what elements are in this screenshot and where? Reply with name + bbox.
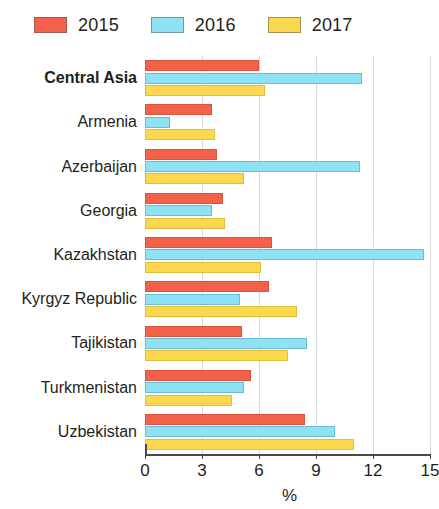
legend-item-2016[interactable]: 2016 — [151, 16, 236, 34]
bar-2015-georgia[interactable] — [145, 193, 223, 204]
bar-group-uzbekistan — [145, 414, 430, 450]
gridline-15 — [430, 56, 431, 454]
bar-2016-georgia[interactable] — [145, 205, 212, 216]
tick-9 — [316, 454, 317, 459]
bar-group-georgia — [145, 193, 430, 229]
category-label-kazakhstan: Kazakhstan — [0, 247, 137, 263]
x-axis-line — [145, 454, 431, 456]
bar-2015-armenia[interactable] — [145, 104, 212, 115]
x-tick-label-6: 6 — [254, 462, 263, 479]
legend-item-2015[interactable]: 2015 — [34, 16, 119, 34]
legend-swatch-2016 — [151, 17, 184, 33]
bar-2015-azerbaijan[interactable] — [145, 149, 217, 160]
bar-2016-central-asia[interactable] — [145, 73, 362, 84]
x-tick-label-15: 15 — [421, 462, 439, 479]
x-tick-label-0: 0 — [140, 462, 149, 479]
bar-2017-armenia[interactable] — [145, 129, 215, 140]
category-label-uzbekistan: Uzbekistan — [0, 424, 137, 440]
x-tick-label-3: 3 — [197, 462, 206, 479]
bar-2017-uzbekistan[interactable] — [145, 439, 354, 450]
category-label-armenia: Armenia — [0, 114, 137, 130]
tick-12 — [373, 454, 374, 459]
bar-group-kazakhstan — [145, 237, 430, 273]
tick-15 — [430, 454, 431, 459]
bar-2016-turkmenistan[interactable] — [145, 382, 244, 393]
legend-swatch-2017 — [268, 17, 301, 33]
bar-2017-kyrgyz-republic[interactable] — [145, 306, 297, 317]
bar-2017-georgia[interactable] — [145, 218, 225, 229]
category-label-central-asia: Central Asia — [0, 70, 137, 86]
x-axis-title: % — [0, 487, 439, 504]
bar-2015-central-asia[interactable] — [145, 60, 259, 71]
bar-group-tajikistan — [145, 326, 430, 362]
category-label-turkmenistan: Turkmenistan — [0, 380, 137, 396]
category-label-tajikistan: Tajikistan — [0, 335, 137, 351]
bar-2016-uzbekistan[interactable] — [145, 426, 335, 437]
legend-label-2016: 2016 — [195, 16, 236, 34]
tick-6 — [259, 454, 260, 459]
legend-label-2015: 2015 — [78, 16, 119, 34]
bar-group-central-asia — [145, 60, 430, 96]
category-label-azerbaijan: Azerbaijan — [0, 159, 137, 175]
bar-2016-tajikistan[interactable] — [145, 338, 307, 349]
bar-2016-azerbaijan[interactable] — [145, 161, 360, 172]
x-axis-title-text: % — [282, 486, 297, 505]
bar-2016-kazakhstan[interactable] — [145, 249, 424, 260]
bar-2017-kazakhstan[interactable] — [145, 262, 261, 273]
bar-2017-azerbaijan[interactable] — [145, 173, 244, 184]
bar-2015-kazakhstan[interactable] — [145, 237, 272, 248]
category-axis-labels: Central AsiaArmeniaAzerbaijanGeorgiaKaza… — [0, 56, 137, 454]
plot-area — [145, 56, 430, 454]
bar-group-turkmenistan — [145, 370, 430, 406]
legend-label-2017: 2017 — [312, 16, 353, 34]
x-tick-label-12: 12 — [364, 462, 383, 479]
category-label-kyrgyz-republic: Kyrgyz Republic — [0, 291, 137, 307]
bar-2015-turkmenistan[interactable] — [145, 370, 251, 381]
category-label-georgia: Georgia — [0, 203, 137, 219]
tick-3 — [202, 454, 203, 459]
bar-2016-kyrgyz-republic[interactable] — [145, 294, 240, 305]
bar-2017-central-asia[interactable] — [145, 85, 265, 96]
chart-legend: 201520162017 — [0, 8, 439, 42]
bar-group-kyrgyz-republic — [145, 281, 430, 317]
x-tick-label-9: 9 — [311, 462, 320, 479]
legend-item-2017[interactable]: 2017 — [268, 16, 353, 34]
bar-chart-figure: 201520162017 Central AsiaArmeniaAzerbaij… — [0, 0, 439, 509]
bar-2017-tajikistan[interactable] — [145, 350, 288, 361]
legend-swatch-2015 — [34, 17, 67, 33]
bar-group-armenia — [145, 104, 430, 140]
tick-0 — [145, 454, 146, 459]
bar-2015-tajikistan[interactable] — [145, 326, 242, 337]
bar-2015-uzbekistan[interactable] — [145, 414, 305, 425]
x-axis-tick-labels: 03691215 — [0, 462, 439, 486]
bar-2017-turkmenistan[interactable] — [145, 395, 232, 406]
bar-2016-armenia[interactable] — [145, 117, 170, 128]
bar-2015-kyrgyz-republic[interactable] — [145, 281, 269, 292]
bar-group-azerbaijan — [145, 149, 430, 185]
